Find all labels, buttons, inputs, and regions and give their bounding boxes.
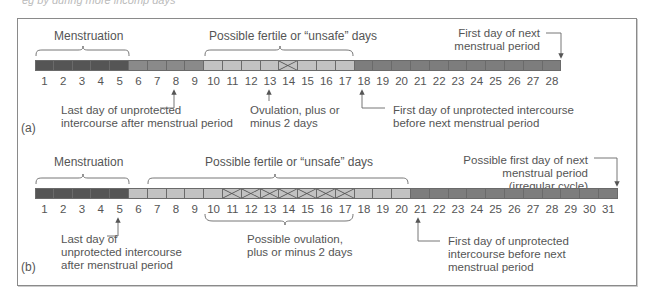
day-number: 23 — [449, 203, 468, 215]
day-number: 10 — [204, 203, 223, 215]
day-numbers-a: 1234567891011121314151617181920212223242… — [35, 75, 561, 87]
day-cell-19 — [373, 60, 392, 71]
day-number: 9 — [185, 203, 204, 215]
day-cell-5 — [110, 188, 129, 199]
day-cell-3 — [73, 60, 92, 71]
day-cell-21 — [411, 60, 430, 71]
panel-label-b: (b) — [21, 260, 36, 274]
day-number: 5 — [110, 75, 129, 87]
day-cell-20 — [392, 188, 411, 199]
day-number: 2 — [54, 203, 73, 215]
day-cell-19 — [373, 188, 392, 199]
day-number: 26 — [505, 75, 524, 87]
day-cell-7 — [148, 60, 167, 71]
day-cell-7 — [148, 188, 167, 199]
day-cell-22 — [430, 60, 449, 71]
day-number: 13 — [261, 75, 280, 87]
day-cell-6 — [129, 60, 148, 71]
day-cell-27 — [524, 188, 543, 199]
day-cell-4 — [91, 60, 110, 71]
day-number: 8 — [167, 75, 186, 87]
day-number: 1 — [35, 203, 54, 215]
day-number: 27 — [524, 203, 543, 215]
day-number: 17 — [336, 75, 355, 87]
day-number: 31 — [599, 203, 618, 215]
fertile-label-a: Possible fertile or “unsafe” days — [209, 30, 377, 43]
day-cell-24 — [467, 60, 486, 71]
day-cell-30 — [580, 188, 599, 199]
cycle-bar-31-days — [35, 188, 618, 199]
day-cell-17 — [336, 188, 355, 199]
day-number: 17 — [336, 203, 355, 215]
day-cell-12 — [242, 60, 261, 71]
day-number: 14 — [279, 203, 298, 215]
day-cell-28 — [543, 60, 562, 71]
day-number: 20 — [392, 75, 411, 87]
menstruation-label-b: Menstruation — [54, 156, 123, 169]
day-cell-4 — [91, 188, 110, 199]
day-number: 14 — [279, 75, 298, 87]
day-cell-28 — [543, 188, 562, 199]
day-number: 10 — [204, 75, 223, 87]
day-cell-15 — [298, 188, 317, 199]
day-cell-1 — [35, 60, 54, 71]
day-cell-14 — [279, 188, 298, 199]
day-number: 15 — [298, 75, 317, 87]
day-number: 4 — [91, 203, 110, 215]
day-cell-5 — [110, 60, 129, 71]
day-cell-21 — [411, 188, 430, 199]
day-cell-29 — [561, 188, 580, 199]
day-cell-25 — [486, 188, 505, 199]
day-number: 26 — [505, 203, 524, 215]
day-cell-2 — [54, 60, 73, 71]
day-cell-11 — [223, 60, 242, 71]
day-number: 22 — [430, 75, 449, 87]
day-cell-8 — [167, 188, 186, 199]
day-number: 13 — [261, 203, 280, 215]
day-cell-16 — [317, 188, 336, 199]
day-number: 20 — [392, 203, 411, 215]
day-number: 15 — [298, 203, 317, 215]
day-number: 6 — [129, 203, 148, 215]
day-number: 12 — [242, 203, 261, 215]
day-cell-12 — [242, 188, 261, 199]
day-cell-23 — [449, 188, 468, 199]
day-cell-20 — [392, 60, 411, 71]
day-number: 30 — [580, 203, 599, 215]
day-number: 28 — [543, 75, 562, 87]
day-cell-9 — [185, 188, 204, 199]
day-number: 23 — [449, 75, 468, 87]
day-cell-18 — [355, 60, 374, 71]
day-cell-22 — [430, 188, 449, 199]
last-day-label-a: Last day of unprotected intercourse afte… — [61, 104, 233, 130]
panel-label-a: (a) — [21, 121, 36, 135]
day-number: 5 — [110, 203, 129, 215]
day-cell-15 — [298, 60, 317, 71]
day-number: 9 — [185, 75, 204, 87]
day-number: 19 — [373, 75, 392, 87]
day-number: 22 — [430, 203, 449, 215]
day-number: 1 — [35, 75, 54, 87]
ovulation-label-a: Ovulation, plus or minus 2 days — [250, 104, 340, 130]
fertile-label-b: Possible fertile or “unsafe” days — [205, 156, 373, 169]
day-number: 7 — [148, 75, 167, 87]
day-number: 27 — [524, 75, 543, 87]
day-cell-11 — [223, 188, 242, 199]
day-number: 28 — [543, 203, 562, 215]
day-number: 2 — [54, 75, 73, 87]
day-number: 21 — [411, 203, 430, 215]
day-cell-18 — [355, 188, 374, 199]
day-number: 19 — [373, 203, 392, 215]
day-cell-9 — [185, 60, 204, 71]
day-number: 3 — [73, 75, 92, 87]
day-cell-31 — [599, 188, 618, 199]
day-number: 25 — [486, 75, 505, 87]
day-number: 8 — [167, 203, 186, 215]
day-cell-23 — [449, 60, 468, 71]
cycle-bar-28-days — [35, 60, 561, 71]
day-cell-10 — [204, 188, 223, 199]
day-cell-6 — [129, 188, 148, 199]
day-number: 7 — [148, 203, 167, 215]
day-number: 21 — [411, 75, 430, 87]
day-cell-27 — [524, 60, 543, 71]
